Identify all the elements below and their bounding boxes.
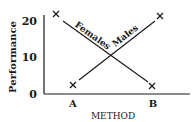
x-axis-label: METHOD [91, 111, 135, 121]
y-tick-10: 10 [22, 51, 38, 64]
females-label: Females [73, 19, 112, 51]
female-marker-a [53, 11, 59, 17]
x-category-b: B [149, 98, 157, 109]
interaction-chart: 20 10 0 Performance A B METHOD Females M… [0, 0, 194, 122]
y-tick-0: 0 [29, 88, 37, 101]
male-marker-b [157, 13, 163, 19]
female-marker-b [149, 83, 155, 89]
x-category-a: A [68, 98, 77, 109]
y-axis-label: Performance [7, 21, 18, 93]
male-marker-a [70, 82, 76, 88]
y-tick-20: 20 [22, 15, 38, 28]
